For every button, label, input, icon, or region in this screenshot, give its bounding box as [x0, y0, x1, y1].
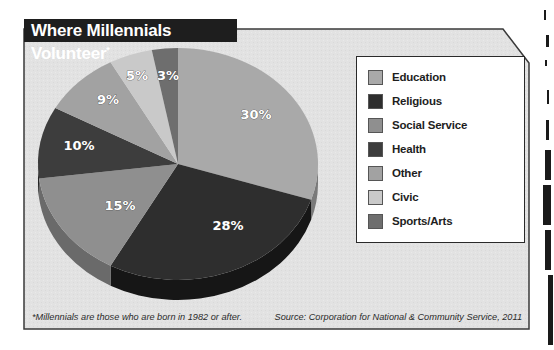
legend-label: Health	[392, 143, 426, 155]
slice-label-education: 30%	[240, 107, 271, 122]
legend-swatch-religious	[368, 94, 383, 109]
slice-label-other: 9%	[97, 92, 119, 107]
torn-edge-decoration	[543, 10, 553, 345]
legend-item-other: Other	[368, 164, 422, 182]
legend-label: Civic	[392, 191, 419, 203]
title-footnote-marker: *	[106, 45, 109, 55]
slice-label-health: 10%	[63, 138, 94, 153]
legend-item-religious: Religious	[368, 92, 442, 110]
legend-swatch-sports-arts	[368, 214, 383, 229]
legend-swatch-other	[368, 166, 383, 181]
legend-swatch-civic	[368, 190, 383, 205]
chart-title: Where Millennials Volunteer*	[24, 19, 237, 42]
legend: Education Religious Social Service Healt…	[356, 56, 525, 243]
legend-swatch-health	[368, 142, 383, 157]
slice-label-religious: 28%	[212, 218, 243, 233]
legend-label: Social Service	[392, 119, 467, 131]
legend-label: Education	[392, 71, 446, 83]
legend-item-health: Health	[368, 140, 426, 158]
legend-item-civic: Civic	[368, 188, 419, 206]
legend-label: Other	[392, 167, 422, 179]
legend-item-education: Education	[368, 68, 446, 86]
slice-label-social-service: 15%	[104, 198, 135, 213]
legend-swatch-education	[368, 70, 383, 85]
legend-label: Religious	[392, 95, 442, 107]
source-citation: Source: Corporation for National & Commu…	[275, 312, 523, 322]
slice-label-civic: 5%	[126, 68, 148, 83]
legend-swatch-social-service	[368, 118, 383, 133]
legend-item-social-service: Social Service	[368, 116, 467, 134]
pie-chart	[38, 48, 318, 300]
legend-item-sports-arts: Sports/Arts	[368, 212, 452, 230]
slice-label-sports-arts: 3%	[157, 68, 179, 83]
footnote: *Millennials are those who are born in 1…	[32, 312, 242, 322]
legend-label: Sports/Arts	[392, 215, 452, 227]
